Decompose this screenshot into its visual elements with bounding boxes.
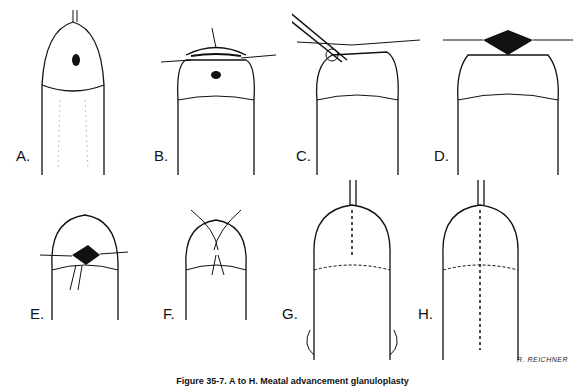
panel-label: E. (30, 305, 44, 322)
panel-a: A. (0, 0, 146, 180)
panel-label: H. (418, 305, 433, 322)
figure-caption: Figure 35-7. A to H. Meatal advancement … (0, 376, 585, 386)
panel-f-illustration (146, 180, 292, 360)
artist-signature: R. REICHNER (517, 356, 568, 363)
panel-h: H. (438, 180, 584, 360)
panel-label: G. (282, 305, 298, 322)
panel-g-illustration (292, 180, 438, 360)
panel-label: D. (434, 147, 449, 164)
panel-g: G. (292, 180, 438, 360)
panel-label: C. (296, 147, 311, 164)
panel-d: D. (438, 0, 584, 180)
panel-e: E. (0, 180, 146, 360)
panel-b: B. (146, 0, 292, 180)
panel-c-illustration (292, 0, 438, 180)
panel-label: F. (163, 305, 175, 322)
panel-label: B. (154, 147, 168, 164)
panel-d-illustration (438, 0, 584, 180)
panel-h-illustration (438, 180, 584, 360)
panel-c: C. (292, 0, 438, 180)
panel-f: F. (146, 180, 292, 360)
panel-label: A. (16, 147, 30, 164)
panel-e-illustration (0, 180, 146, 360)
